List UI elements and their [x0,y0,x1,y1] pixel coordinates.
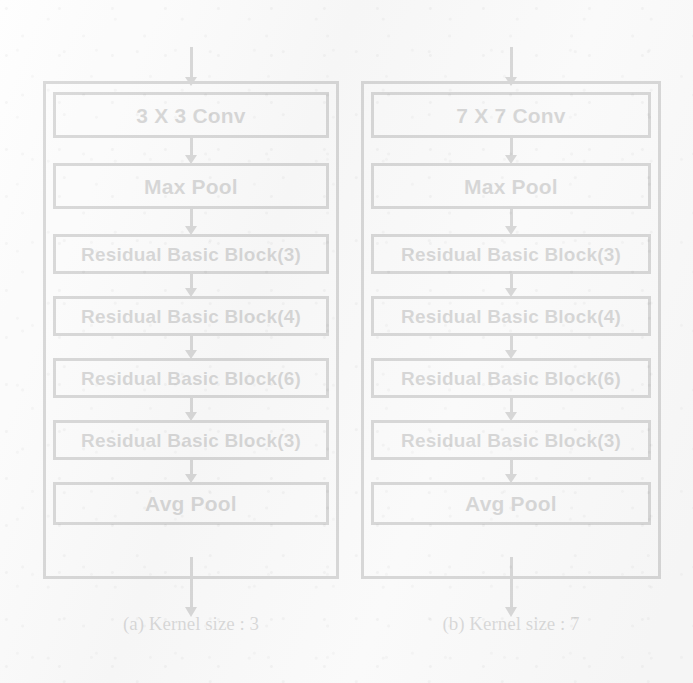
output-arrow-icon [510,557,513,609]
block-residual-2[interactable]: Residual Basic Block(4) [53,296,329,336]
block-conv[interactable]: 3 X 3 Conv [53,92,329,138]
block-residual-4[interactable]: Residual Basic Block(3) [371,420,651,460]
block-avg-pool[interactable]: Avg Pool [53,482,329,525]
connector-arrow-icon [53,336,329,358]
input-arrow-icon [190,47,193,81]
connector-arrow-icon [53,138,329,163]
block-avg-pool[interactable]: Avg Pool [371,482,651,525]
block-residual-1[interactable]: Residual Basic Block(3) [371,234,651,274]
connector-arrow-icon [371,398,651,420]
connector-arrow-icon [53,398,329,420]
architecture-figure: 3 X 3 Conv Max Pool Residual Basic Block… [0,0,693,683]
caption-kernel-7: (b) Kernel size : 7 [361,613,661,635]
block-residual-2[interactable]: Residual Basic Block(4) [371,296,651,336]
block-label: Residual Basic Block(3) [401,245,621,264]
block-label: Residual Basic Block(4) [81,307,301,326]
block-label: Max Pool [144,176,238,197]
block-label: Max Pool [464,176,558,197]
block-label: Residual Basic Block(3) [81,245,301,264]
block-label: Residual Basic Block(6) [401,369,621,388]
block-label: Residual Basic Block(3) [81,431,301,450]
block-label: Residual Basic Block(6) [81,369,301,388]
connector-arrow-icon [371,138,651,163]
block-conv[interactable]: 7 X 7 Conv [371,92,651,138]
connector-arrow-icon [371,336,651,358]
block-residual-1[interactable]: Residual Basic Block(3) [53,234,329,274]
caption-kernel-3: (a) Kernel size : 3 [43,613,339,635]
block-label: 7 X 7 Conv [456,105,565,126]
connector-arrow-icon [371,460,651,482]
block-residual-4[interactable]: Residual Basic Block(3) [53,420,329,460]
block-max-pool[interactable]: Max Pool [53,163,329,209]
block-residual-3[interactable]: Residual Basic Block(6) [371,358,651,398]
block-stack: 7 X 7 Conv Max Pool Residual Basic Block… [361,81,661,579]
output-arrow-icon [190,557,193,609]
connector-arrow-icon [53,460,329,482]
connector-arrow-icon [371,274,651,296]
block-stack: 3 X 3 Conv Max Pool Residual Basic Block… [43,81,339,579]
block-label: Residual Basic Block(4) [401,307,621,326]
block-label: 3 X 3 Conv [136,105,245,126]
input-arrow-icon [510,47,513,81]
connector-arrow-icon [371,209,651,234]
block-label: Avg Pool [145,493,237,514]
block-residual-3[interactable]: Residual Basic Block(6) [53,358,329,398]
block-max-pool[interactable]: Max Pool [371,163,651,209]
block-label: Avg Pool [465,493,557,514]
connector-arrow-icon [53,274,329,296]
block-label: Residual Basic Block(3) [401,431,621,450]
connector-arrow-icon [53,209,329,234]
